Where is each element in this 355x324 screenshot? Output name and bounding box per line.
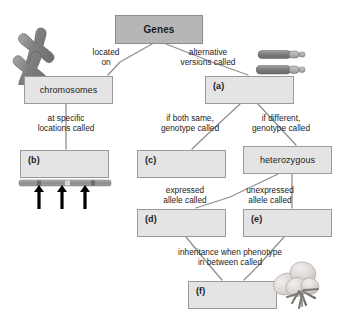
edge-label-expressed-allele: expressed allele called	[152, 185, 218, 205]
node-d-label: (d)	[145, 214, 157, 224]
node-chromosomes[interactable]: chromosomes	[24, 76, 113, 104]
edge-label-if-different: if different, genotype called	[243, 113, 319, 133]
edge-label-alternative-versions: alternative versions called	[172, 47, 244, 67]
node-heterozygous-label: heterozygous	[260, 155, 315, 165]
node-f[interactable]: (f)	[188, 281, 277, 309]
edge-label-if-both-same: if both same, genotype called	[152, 113, 228, 133]
node-c[interactable]: (c)	[137, 150, 226, 178]
gene-locus-bar-icon	[18, 178, 114, 212]
node-a-label: (a)	[213, 81, 224, 91]
node-b[interactable]: (b)	[20, 150, 109, 178]
edge-label-at-specific-locations: at specific locations called	[24, 113, 108, 133]
node-e[interactable]: (e)	[243, 209, 332, 237]
node-c-label: (c)	[145, 155, 156, 165]
node-e-label: (e)	[251, 214, 262, 224]
node-genes[interactable]: Genes	[115, 15, 203, 44]
node-genes-label: Genes	[143, 24, 174, 35]
node-heterozygous[interactable]: heterozygous	[243, 146, 332, 174]
node-chromosomes-label: chromosomes	[40, 85, 98, 95]
node-d[interactable]: (d)	[137, 209, 226, 237]
concept-map-diagram: Genes chromosomes (a) (b) (c) heterozygo…	[0, 0, 355, 324]
edge-label-located-on: located on	[82, 47, 130, 67]
pink-flower-icon	[266, 260, 330, 316]
edge-label-unexpressed-allele: unexpressed allele called	[234, 185, 306, 205]
locus-arrow-2	[57, 185, 67, 209]
node-b-label: (b)	[28, 155, 40, 165]
node-f-label: (f)	[196, 286, 205, 296]
chromosome-pair-linear-icon	[256, 47, 348, 83]
locus-arrow-3	[80, 185, 90, 209]
locus-arrow-1	[34, 185, 44, 209]
